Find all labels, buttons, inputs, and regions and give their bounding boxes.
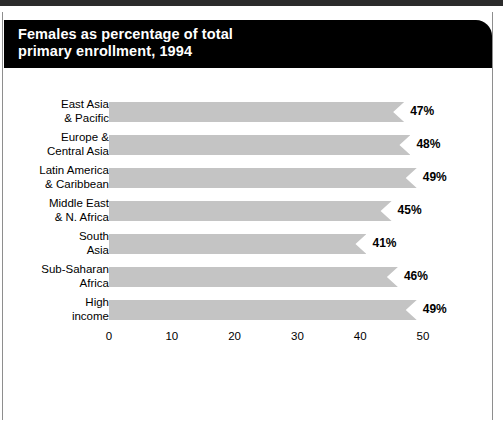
bar (109, 300, 417, 320)
bar-row: Latin America & Caribbean49% (3, 168, 492, 188)
bar (109, 135, 410, 155)
x-axis-tick: 40 (354, 330, 367, 342)
bar (109, 168, 417, 188)
bar-value-label: 45% (398, 203, 422, 217)
bar (109, 201, 392, 221)
bar-fill (109, 234, 366, 254)
title-band: Females as percentage of total primary e… (4, 20, 492, 68)
x-axis-tick: 0 (106, 330, 112, 342)
bar-row: Sub-Saharan Africa46% (3, 267, 492, 287)
bar-fill (109, 201, 392, 221)
bar (109, 102, 404, 122)
category-label: Europe & Central Asia (0, 131, 109, 158)
x-axis-tick: 10 (165, 330, 178, 342)
category-label: South Asia (0, 230, 109, 257)
category-label: Middle East & N. Africa (0, 197, 109, 224)
page-top-strip (0, 0, 503, 6)
x-axis-tick: 30 (291, 330, 304, 342)
bar-value-label: 49% (423, 302, 447, 316)
bar-fill (109, 168, 417, 188)
bar-fill (109, 102, 404, 122)
bar-row: Middle East & N. Africa45% (3, 201, 492, 221)
x-axis-tick: 20 (228, 330, 241, 342)
chart-panel: Females as percentage of total primary e… (2, 12, 493, 420)
x-axis-tick: 50 (417, 330, 430, 342)
bar-value-label: 49% (423, 170, 447, 184)
bar-row: Europe & Central Asia48% (3, 135, 492, 155)
bar-value-label: 47% (410, 104, 434, 118)
bar-row: High income49% (3, 300, 492, 320)
bar-row: South Asia41% (3, 234, 492, 254)
category-label: East Asia & Pacific (0, 98, 109, 125)
bar-fill (109, 267, 398, 287)
page-title: Females as percentage of total primary e… (18, 26, 233, 60)
category-label: High income (0, 296, 109, 323)
bar (109, 267, 398, 287)
bar-value-label: 41% (372, 236, 396, 250)
bar-value-label: 46% (404, 269, 428, 283)
bar-fill (109, 300, 417, 320)
bar (109, 234, 366, 254)
bar-value-label: 48% (416, 137, 440, 151)
bar-fill (109, 135, 410, 155)
bar-row: East Asia & Pacific47% (3, 102, 492, 122)
category-label: Latin America & Caribbean (0, 164, 109, 191)
x-axis-tick-labels: 01020304050 (3, 330, 492, 350)
category-label: Sub-Saharan Africa (0, 263, 109, 290)
bar-chart-plot-area: East Asia & Pacific47%Europe & Central A… (3, 82, 492, 352)
